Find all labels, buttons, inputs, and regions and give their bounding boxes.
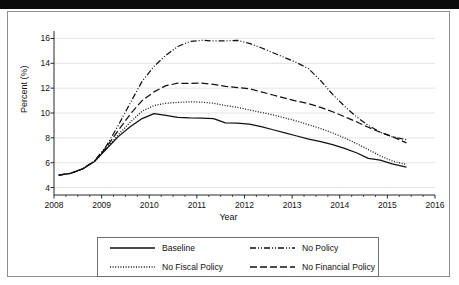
x-tick-label: 2008: [45, 201, 64, 210]
y-tick-label: 10: [41, 109, 50, 118]
data-series: [59, 40, 407, 175]
chart-svg: [54, 31, 435, 195]
series-line-baseline: [59, 114, 407, 175]
y-tick-label: 12: [41, 84, 50, 93]
legend-item-no-policy[interactable]: No Policy: [238, 243, 378, 253]
y-axis-title: Percent (%): [19, 65, 29, 113]
legend-label: No Fiscal Policy: [162, 262, 223, 272]
legend-item-baseline[interactable]: Baseline: [98, 243, 238, 253]
y-tick-label: 16: [41, 34, 50, 43]
x-tick-label: 2013: [283, 201, 302, 210]
legend-label: No Policy: [302, 243, 338, 253]
gridlines: [54, 38, 435, 187]
y-tick-label: 8: [45, 134, 50, 143]
y-tick-label: 6: [45, 158, 50, 167]
legend-label: Baseline: [162, 243, 195, 253]
x-tick-label: 2009: [92, 201, 111, 210]
x-axis-title: Year: [8, 212, 449, 222]
y-tick-label: 4: [45, 183, 50, 192]
figure-frame: Percent (%) Year 46810121416 20082009201…: [7, 11, 450, 277]
x-tick-label: 2010: [140, 201, 159, 210]
legend-label: No Financial Policy: [302, 262, 375, 272]
x-tick-label: 2011: [188, 201, 206, 210]
series-line-no-financial-policy: [59, 83, 407, 175]
plot-area: 46810121416 2008200920102011201220132014…: [54, 31, 435, 195]
series-line-no-policy: [59, 40, 407, 175]
x-tick-label: 2015: [378, 201, 397, 210]
x-tick-label: 2012: [235, 201, 254, 210]
chart-legend: BaselineNo PolicyNo Fiscal PolicyNo Fina…: [97, 237, 379, 277]
scan-artifact-bar: [0, 0, 459, 9]
legend-line-swatch: [109, 243, 156, 253]
legend-grid: BaselineNo PolicyNo Fiscal PolicyNo Fina…: [98, 238, 378, 276]
x-tick-label: 2014: [330, 201, 349, 210]
axis-ticks: [51, 31, 436, 199]
y-tick-label: 14: [41, 59, 50, 68]
x-tick-label: 2016: [426, 201, 445, 210]
figure-page: Percent (%) Year 46810121416 20082009201…: [0, 0, 459, 285]
legend-line-swatch: [109, 262, 156, 272]
legend-item-no-financial-policy[interactable]: No Financial Policy: [238, 262, 378, 272]
legend-line-swatch: [249, 262, 296, 272]
legend-item-no-fiscal-policy[interactable]: No Fiscal Policy: [98, 262, 238, 272]
legend-line-swatch: [249, 243, 296, 253]
